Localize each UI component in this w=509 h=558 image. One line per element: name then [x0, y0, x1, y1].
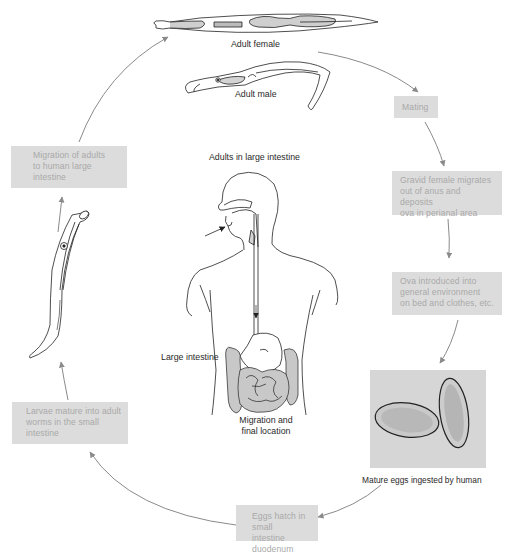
stage-box-migration-adults: Migration of adults to human large intes… [11, 146, 127, 188]
stage-box-ova-introduced: Ova introduced into general environment … [392, 272, 502, 315]
larva-worm [30, 210, 90, 358]
label-adults-in-large-intestine: Adults in large intestine [209, 152, 300, 163]
stage-box-eggs-hatch: Eggs hatch in small intestine duodenum [236, 505, 318, 541]
label-mature-eggs: Mature eggs ingested by human [362, 475, 482, 486]
arrow-into-mouth [205, 227, 225, 236]
label-migration-final-location: Migration and final location [224, 415, 308, 437]
arrow-migration-to-female [79, 37, 168, 142]
arrow-mating-to-gravid [425, 122, 444, 166]
label-large-intestine: Large intestine [161, 352, 219, 363]
label-adult-female: Adult female [231, 39, 280, 50]
arrow-female-to-mating [318, 52, 418, 92]
stage-box-mating: Mating [394, 96, 438, 118]
arrow-larvae-to-worm [61, 362, 68, 400]
arrow-photo-to-hatch [318, 485, 381, 517]
arrow-gravid-to-ova [448, 219, 449, 258]
arrow-ova-to-photo [440, 320, 458, 363]
stomach [240, 333, 282, 373]
stage-box-larvae-mature: Larvae mature into adult worms in the sm… [12, 402, 128, 444]
arrow-hatch-to-larvae [90, 452, 236, 525]
adult-female-worm [154, 14, 378, 32]
label-adult-male: Adult male [235, 89, 277, 100]
pinworm-life-cycle-diagram: Mating Gravid female migrates out of anu… [0, 0, 509, 558]
stage-box-gravid-female: Gravid female migrates out of anus and d… [392, 171, 502, 215]
adult-male-worm [185, 62, 330, 110]
arrow-worm-to-migration [58, 197, 62, 232]
eggs-photo-art [370, 370, 486, 468]
